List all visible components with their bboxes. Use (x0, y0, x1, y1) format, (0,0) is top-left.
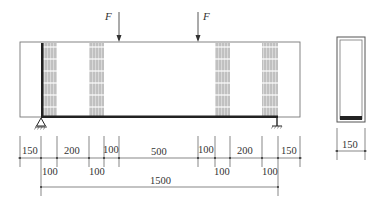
dim-label: 100 (42, 166, 58, 177)
section-bottom-plate (340, 116, 362, 120)
dim-label: 500 (151, 146, 167, 157)
section-width-label: 150 (342, 139, 358, 150)
dim-label: 100 (214, 166, 230, 177)
support-left (35, 118, 48, 130)
dimension-labels-top: 150 200 100 500 100 200 150 (22, 144, 297, 157)
dimension-chain (18, 136, 302, 196)
bottom-plate (41, 116, 278, 119)
load-arrow-left: F (104, 10, 122, 42)
strip-2 (89, 43, 104, 117)
dim-label: 100 (89, 166, 105, 177)
dim-label: 200 (64, 145, 80, 156)
beam-diagram: F F (0, 0, 383, 208)
beam-elevation (20, 42, 300, 118)
strip-3 (215, 43, 230, 117)
dim-label: 100 (198, 144, 214, 155)
strip-4 (262, 43, 278, 117)
cross-section: 150 (335, 37, 367, 160)
dim-label: 150 (22, 145, 38, 156)
load-label-left: F (104, 10, 112, 22)
strip-1-dark-edge (41, 43, 44, 117)
dimension-labels-bottom: 100 100 100 100 1500 (42, 166, 278, 186)
load-arrows: F F (104, 10, 210, 42)
dim-label-total: 1500 (150, 175, 171, 186)
dim-label: 100 (262, 166, 278, 177)
dim-label: 200 (237, 145, 253, 156)
load-arrow-right: F (196, 10, 211, 42)
dim-label: 100 (103, 144, 119, 155)
support-right (272, 118, 283, 129)
dim-label: 150 (281, 145, 297, 156)
load-label-right: F (202, 10, 210, 22)
